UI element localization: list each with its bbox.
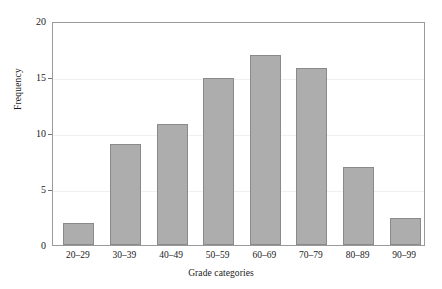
- bar: [296, 68, 327, 245]
- gridline: [53, 135, 424, 136]
- bar: [63, 223, 94, 245]
- x-tick-label: 90–99: [374, 250, 434, 261]
- y-tick-label: 10: [22, 129, 46, 139]
- bar: [390, 218, 421, 245]
- y-tick-label: 15: [22, 73, 46, 83]
- bar: [250, 55, 281, 245]
- y-axis-title: Frequency: [13, 96, 23, 110]
- bar: [343, 167, 374, 245]
- bar: [203, 78, 234, 245]
- x-axis-title: Grade categories: [0, 268, 442, 278]
- gridline: [53, 79, 424, 80]
- bar: [157, 124, 188, 245]
- y-tick-label: 20: [22, 17, 46, 27]
- y-tick-label: 5: [22, 185, 46, 195]
- histogram-figure: Frequency 05101520 20–2930–3940–4950–596…: [0, 0, 442, 289]
- plot-area: [52, 22, 425, 246]
- y-tick-label: 0: [22, 241, 46, 251]
- bar: [110, 144, 141, 245]
